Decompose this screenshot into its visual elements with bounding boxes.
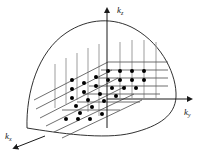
axis-label-kx: kx xyxy=(5,131,12,142)
diagram-canvas: kz ky kx xyxy=(0,0,202,154)
axis-label-kz: kz xyxy=(117,5,124,16)
axis-kx xyxy=(17,136,45,147)
lattice-points xyxy=(64,69,146,121)
axis-label-ky: ky xyxy=(184,107,191,118)
k-space-diagram: kz ky kx xyxy=(0,0,202,154)
